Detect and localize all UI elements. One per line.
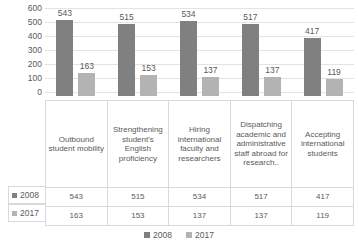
bar-group: 534137 bbox=[169, 8, 231, 96]
table-row-header-2008: 2008 bbox=[8, 186, 46, 204]
table-row: 163153137137119 bbox=[46, 207, 354, 226]
table-row: 543515534517417 bbox=[46, 188, 354, 207]
table-cell: 534 bbox=[169, 188, 231, 207]
bar-value-label: 534 bbox=[181, 10, 195, 19]
table-cell: 543 bbox=[46, 188, 108, 207]
bar-value-label: 137 bbox=[203, 66, 217, 75]
row-header-label: 2008 bbox=[20, 190, 39, 200]
legend-swatch-2017-icon bbox=[186, 232, 192, 238]
legend: 2008 2017 bbox=[0, 230, 358, 240]
bar-2017[interactable]: 119 bbox=[326, 79, 343, 96]
category-label: Strengthening student's English proficie… bbox=[107, 101, 169, 188]
bar-group: 417119 bbox=[292, 8, 354, 96]
table-cell: 163 bbox=[46, 207, 108, 226]
y-axis-tick: 600 bbox=[14, 4, 42, 13]
data-table: Outbound student mobilityStrengthening s… bbox=[45, 100, 354, 226]
category-label: Hiring international faculty and researc… bbox=[169, 101, 231, 188]
bar-value-label: 153 bbox=[142, 64, 156, 73]
row-header-label: 2017 bbox=[20, 208, 39, 218]
legend-item-2017[interactable]: 2017 bbox=[186, 230, 214, 240]
y-axis-tick: 100 bbox=[14, 74, 42, 83]
bars-plot: 543163515153534137517137417119 bbox=[45, 8, 354, 96]
y-axis-tick: 500 bbox=[14, 18, 42, 27]
bar-2017[interactable]: 137 bbox=[202, 77, 219, 96]
legend-label: 2017 bbox=[195, 230, 214, 240]
series-swatch-2017-icon bbox=[12, 211, 17, 216]
category-label: Accepting international students bbox=[292, 101, 354, 188]
legend-label: 2008 bbox=[153, 230, 172, 240]
category-label: Outbound student mobility bbox=[46, 101, 108, 188]
plot-area: 600 500 400 300 200 100 0 54316351515353… bbox=[0, 8, 358, 100]
bar-value-label: 163 bbox=[80, 62, 94, 71]
bar-value-label: 543 bbox=[58, 9, 72, 18]
bar-value-label: 517 bbox=[243, 13, 257, 22]
bar-2008[interactable]: 515 bbox=[118, 24, 135, 96]
table-cell: 137 bbox=[169, 207, 231, 226]
y-axis-tick: 400 bbox=[14, 32, 42, 41]
y-axis-tick: 300 bbox=[14, 46, 42, 55]
bar-groups: 543163515153534137517137417119 bbox=[45, 8, 354, 96]
table-row-categories: Outbound student mobilityStrengthening s… bbox=[46, 101, 354, 188]
table-cell: 153 bbox=[107, 207, 169, 226]
bar-value-label: 417 bbox=[305, 27, 319, 36]
bar-2008[interactable]: 517 bbox=[242, 24, 259, 96]
bar-chart: 600 500 400 300 200 100 0 54316351515353… bbox=[0, 0, 358, 250]
bar-2008[interactable]: 543 bbox=[56, 20, 73, 96]
bar-group: 543163 bbox=[45, 8, 107, 96]
y-axis-tick: 200 bbox=[14, 60, 42, 69]
bar-2017[interactable]: 163 bbox=[78, 73, 95, 96]
legend-swatch-2008-icon bbox=[144, 232, 150, 238]
series-swatch-2008-icon bbox=[12, 193, 17, 198]
bar-2017[interactable]: 153 bbox=[140, 75, 157, 96]
bar-2017[interactable]: 137 bbox=[264, 77, 281, 96]
bar-2008[interactable]: 417 bbox=[304, 38, 321, 96]
table-cell: 515 bbox=[107, 188, 169, 207]
bar-value-label: 137 bbox=[265, 66, 279, 75]
table-row-header-2017: 2017 bbox=[8, 204, 46, 222]
y-axis-tick: 0 bbox=[14, 88, 42, 97]
bar-2008[interactable]: 534 bbox=[180, 21, 197, 96]
y-axis: 600 500 400 300 200 100 0 bbox=[14, 8, 42, 96]
legend-item-2008[interactable]: 2008 bbox=[144, 230, 172, 240]
bar-value-label: 515 bbox=[120, 13, 134, 22]
bar-group: 517137 bbox=[230, 8, 292, 96]
category-label: Dispatching academic and administrative … bbox=[230, 101, 292, 188]
table-cell: 119 bbox=[292, 207, 354, 226]
bar-value-label: 119 bbox=[327, 68, 341, 77]
table-cell: 517 bbox=[230, 188, 292, 207]
table-cell: 137 bbox=[230, 207, 292, 226]
bar-group: 515153 bbox=[107, 8, 169, 96]
table-cell: 417 bbox=[292, 188, 354, 207]
